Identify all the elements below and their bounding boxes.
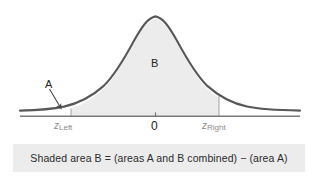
area-b-label: B bbox=[151, 57, 158, 69]
caption-band: Shaded area B = (areas A and B combined)… bbox=[13, 144, 305, 172]
z-left-subscript: Left bbox=[59, 123, 72, 132]
caption-text: Shaded area B = (areas A and B combined)… bbox=[13, 144, 305, 172]
z-right-subscript: Right bbox=[207, 123, 226, 132]
origin-tick-label: 0 bbox=[151, 119, 158, 133]
area-a-label: A bbox=[45, 78, 52, 90]
z-left-tick-label: zLeft bbox=[54, 120, 72, 132]
normal-distribution-figure: B A zLeft 0 zRight Shaded area B = (area… bbox=[0, 0, 316, 179]
area-a-arrow bbox=[50, 89, 61, 108]
shaded-area-b bbox=[20, 18, 300, 116]
z-right-tick-label: zRight bbox=[202, 120, 226, 132]
